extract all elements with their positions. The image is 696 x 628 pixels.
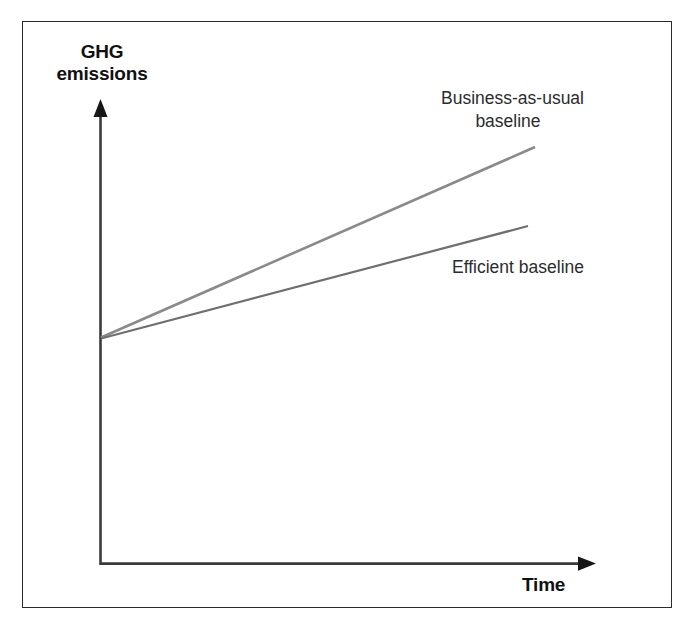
series-annotation-business-as-usual: Business-as-usual baseline [441, 87, 575, 134]
figure-canvas: GHG emissions Time Business-as-usual bas… [0, 0, 696, 628]
chart-plot-area [0, 0, 696, 628]
x-axis-title: Time [522, 574, 565, 596]
y-axis-title: GHG emissions [43, 41, 161, 84]
series-annotation-bau-line-2: baseline [441, 110, 575, 133]
y-axis-arrowhead-icon [94, 99, 108, 117]
series-annotation-efficient: Efficient baseline [452, 256, 584, 279]
series-annotation-bau-line-1: Business-as-usual [441, 88, 584, 108]
x-axis-arrowhead-icon [578, 556, 596, 570]
y-axis-title-line-1: GHG [81, 41, 124, 62]
y-axis-title-line-2: emissions [43, 63, 161, 85]
